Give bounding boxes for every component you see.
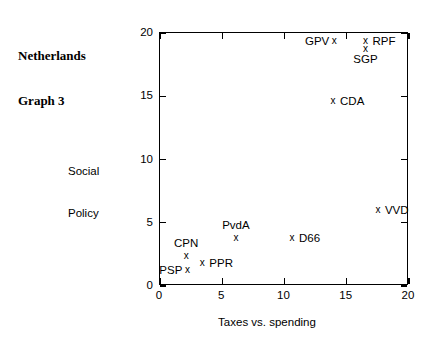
data-point-marker: x	[289, 233, 294, 243]
y-axis-tick	[160, 159, 166, 160]
data-point-label: CPN	[174, 237, 198, 249]
y-axis-label-line-1: Social	[68, 164, 99, 178]
y-axis-label-line-2: Policy	[68, 206, 99, 220]
y-axis-tick	[160, 222, 166, 223]
x-tick-label: 15	[339, 289, 352, 301]
x-axis-label: Taxes vs. spending	[218, 316, 316, 328]
data-point-marker: x	[233, 233, 238, 243]
x-axis-tick	[408, 33, 409, 39]
data-point-marker: x	[200, 258, 205, 268]
data-point-marker: x	[184, 251, 189, 261]
x-axis-tick	[159, 33, 160, 39]
data-point-marker: x	[375, 205, 380, 215]
plot-area: xGPVxRPFxSGPxCDAxVVDxD66xPvdAxCPNxPPRxPS…	[159, 32, 408, 285]
y-axis-tick	[401, 285, 407, 286]
data-point-marker: x	[332, 36, 337, 46]
x-tick-label: 20	[402, 289, 415, 301]
x-axis-tick	[408, 278, 409, 284]
y-axis-tick	[401, 32, 407, 33]
y-axis-tick	[160, 96, 166, 97]
data-point-label: VVD	[385, 204, 409, 216]
title-line-1: Netherlands	[18, 48, 86, 63]
x-tick-label: 5	[218, 289, 224, 301]
x-axis-tick	[222, 33, 223, 39]
x-tick-label: 10	[277, 289, 290, 301]
y-axis-tick	[160, 285, 166, 286]
x-tick-label: 0	[156, 289, 162, 301]
data-point-label: RPF	[372, 35, 395, 47]
y-axis-tick	[160, 32, 166, 33]
y-tick-label: 10	[127, 153, 153, 165]
page-title: Netherlands Graph 3	[18, 18, 86, 138]
data-point-marker: x	[331, 96, 336, 106]
x-axis-tick	[284, 33, 285, 39]
y-axis-tick	[401, 96, 407, 97]
x-axis-tick	[284, 278, 285, 284]
data-point-label: PvdA	[222, 219, 250, 231]
y-tick-label: 15	[127, 89, 153, 101]
data-point-marker: x	[185, 265, 190, 275]
data-point-label: GPV	[305, 35, 329, 47]
y-axis-label: Social Policy	[68, 136, 99, 248]
x-axis-tick	[159, 278, 160, 284]
y-axis-tick	[401, 222, 407, 223]
data-point-label: SGP	[353, 53, 377, 65]
x-axis-label-wrap: Taxes vs. spending	[0, 316, 432, 328]
data-point-label: CDA	[340, 95, 364, 107]
x-axis-tick	[346, 33, 347, 39]
x-axis-tick	[222, 278, 223, 284]
data-point-label: PPR	[209, 257, 233, 269]
y-axis-tick	[401, 159, 407, 160]
data-point-label: PSP	[159, 264, 182, 276]
y-tick-label: 0	[127, 279, 153, 291]
y-tick-label: 20	[127, 26, 153, 38]
title-line-2: Graph 3	[18, 93, 86, 108]
chart-screenshot: Netherlands Graph 3 Social Policy Taxes …	[0, 0, 432, 340]
y-tick-label: 5	[127, 216, 153, 228]
data-point-label: D66	[299, 232, 320, 244]
x-axis-tick	[346, 278, 347, 284]
